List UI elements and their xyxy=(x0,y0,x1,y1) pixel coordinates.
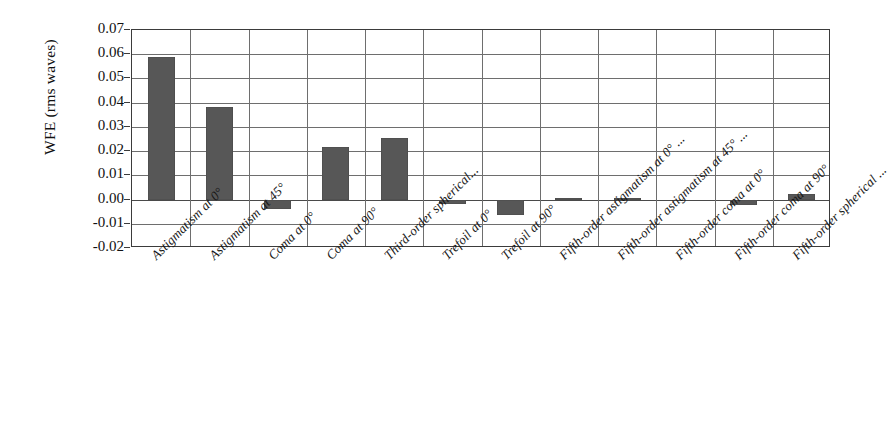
gridline-vertical xyxy=(598,30,599,246)
gridline-horizontal xyxy=(132,224,829,225)
bar xyxy=(381,138,408,200)
y-tick-mark xyxy=(124,126,130,127)
y-tick-mark xyxy=(124,53,130,54)
gridline-vertical xyxy=(423,30,424,246)
gridline-vertical xyxy=(715,30,716,246)
bar xyxy=(439,200,466,204)
gridline-horizontal xyxy=(132,127,829,128)
gridline-vertical xyxy=(482,30,483,246)
bar xyxy=(322,147,349,199)
gridline-horizontal xyxy=(132,175,829,176)
gridline-horizontal xyxy=(132,200,829,201)
y-tick-mark xyxy=(124,247,130,248)
bar xyxy=(206,107,233,200)
y-tick-label: 0.00 xyxy=(54,191,124,206)
bar xyxy=(148,57,175,199)
y-tick-label: -0.01 xyxy=(54,215,124,230)
gridline-horizontal xyxy=(132,54,829,55)
bar xyxy=(555,198,582,200)
y-tick-mark xyxy=(124,102,130,103)
gridline-vertical xyxy=(249,30,250,246)
gridline-vertical xyxy=(540,30,541,246)
y-tick-label: 0.07 xyxy=(54,21,124,36)
y-tick-label: 0.05 xyxy=(54,69,124,84)
y-tick-mark xyxy=(124,174,130,175)
gridline-horizontal xyxy=(132,151,829,152)
y-tick-mark xyxy=(124,150,130,151)
y-tick-label: 0.01 xyxy=(54,166,124,181)
y-tick-mark xyxy=(124,223,130,224)
gridline-horizontal xyxy=(132,103,829,104)
gridline-vertical xyxy=(773,30,774,246)
y-tick-label: 0.06 xyxy=(54,45,124,60)
bar xyxy=(730,200,757,205)
plot-area xyxy=(131,29,830,247)
gridline-vertical xyxy=(190,30,191,246)
y-tick-label: 0.03 xyxy=(54,118,124,133)
y-tick-label: 0.02 xyxy=(54,142,124,157)
y-tick-mark xyxy=(124,199,130,200)
y-tick-mark xyxy=(124,29,130,30)
y-tick-label: -0.02 xyxy=(54,239,124,254)
gridline-vertical xyxy=(307,30,308,246)
y-axis-tick-labels: 0.070.060.050.040.030.020.010.00-0.01-0.… xyxy=(48,29,124,247)
y-tick-label: 0.04 xyxy=(54,94,124,109)
gridline-vertical xyxy=(365,30,366,246)
y-tick-mark xyxy=(124,77,130,78)
bar xyxy=(788,194,815,200)
bar xyxy=(497,200,524,215)
gridline-horizontal xyxy=(132,78,829,79)
bar xyxy=(614,198,641,200)
bar xyxy=(264,200,291,209)
gridline-vertical xyxy=(656,30,657,246)
